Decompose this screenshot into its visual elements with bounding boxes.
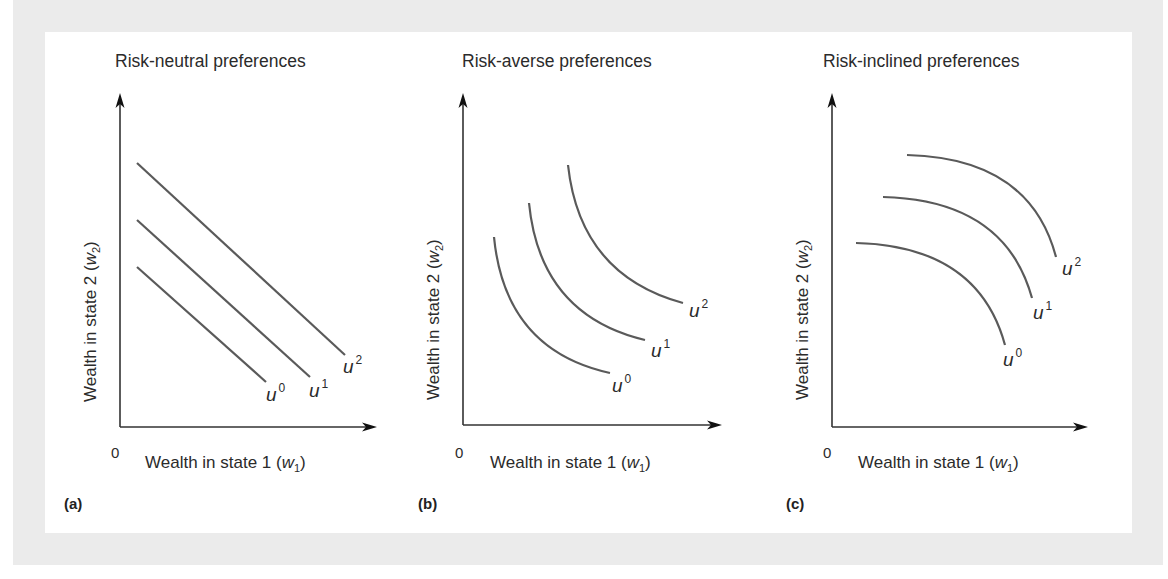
indifference-curve-u0: [137, 267, 266, 382]
x-axis-label: Wealth in state 1 (w1): [490, 453, 651, 474]
panel-tag: (b): [418, 495, 437, 512]
panel-c: Risk-inclined preferences u0 u1 u2 0 Wea…: [786, 51, 1088, 512]
panel-title: Risk-inclined preferences: [823, 51, 1020, 71]
y-axis-label: Wealth in state 2 (w2): [81, 241, 102, 402]
curve-label-u1: u1: [1033, 299, 1053, 323]
curve-label-u1: u1: [651, 337, 671, 361]
indifference-curve-u0: [856, 243, 1005, 345]
origin-label: 0: [111, 444, 119, 461]
indifference-curve-u0: [494, 237, 610, 373]
indifference-curve-u2: [568, 165, 683, 303]
curve-label-u0: u0: [266, 381, 286, 405]
indifference-curve-u2: [137, 163, 345, 355]
curve-label-u2: u2: [1062, 255, 1082, 279]
origin-label: 0: [823, 444, 831, 461]
indifference-curve-u1: [883, 197, 1032, 298]
panel-title: Risk-neutral preferences: [115, 51, 306, 71]
y-axis-label: Wealth in state 2 (w2): [793, 239, 814, 400]
curve-label-u1: u1: [309, 377, 329, 401]
indifference-curves-figure: Risk-neutral preferences u0 u1 u2 0 Weal…: [0, 0, 1168, 579]
panel-tag: (c): [786, 495, 804, 512]
curve-label-u0: u0: [612, 372, 632, 396]
origin-label: 0: [455, 444, 463, 461]
indifference-curve-u2: [907, 155, 1056, 257]
panel-title: Risk-averse preferences: [462, 51, 652, 71]
curve-label-u0: u0: [1003, 346, 1023, 370]
panel-b: Risk-averse preferences u0 u1 u2 0 Wealt…: [418, 51, 722, 512]
y-axis-label: Wealth in state 2 (w2): [424, 239, 445, 400]
panel-a: Risk-neutral preferences u0 u1 u2 0 Weal…: [64, 51, 377, 512]
panel-tag: (a): [64, 495, 82, 512]
curve-label-u2: u2: [343, 353, 363, 377]
indifference-curve-u1: [529, 203, 645, 340]
curve-label-u2: u2: [689, 297, 709, 321]
x-axis-label: Wealth in state 1 (w1): [858, 453, 1019, 474]
x-axis-label: Wealth in state 1 (w1): [145, 453, 306, 474]
